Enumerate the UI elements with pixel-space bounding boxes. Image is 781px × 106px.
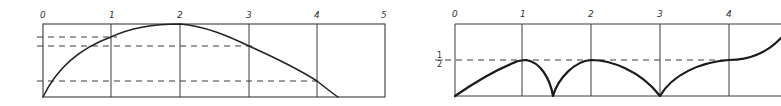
right-tick-4: 4 [726, 9, 732, 19]
left-tick-5: 5 [381, 10, 387, 20]
right-tick-2: 2 [588, 9, 594, 19]
left-tick-3: 3 [246, 10, 252, 20]
figure-canvas: 0 1 2 3 4 5 0 1 2 3 4 1 2 [0, 0, 781, 106]
right-chart: 0 1 2 3 4 1 2 [435, 9, 781, 96]
left-chart: 0 1 2 3 4 5 [37, 10, 387, 97]
right-curve [455, 38, 781, 96]
left-chart-frame [43, 24, 385, 97]
right-tick-3: 3 [657, 9, 663, 19]
half-label-denominator: 2 [437, 60, 442, 69]
half-label: 1 2 [435, 51, 443, 69]
half-label-numerator: 1 [437, 51, 442, 60]
left-tick-2: 2 [177, 10, 183, 20]
right-tick-0: 0 [452, 9, 458, 19]
left-tick-0: 0 [40, 10, 46, 20]
left-tick-4: 4 [314, 10, 320, 20]
left-tick-1: 1 [109, 10, 115, 20]
left-curve [43, 24, 338, 97]
right-tick-1: 1 [520, 9, 526, 19]
